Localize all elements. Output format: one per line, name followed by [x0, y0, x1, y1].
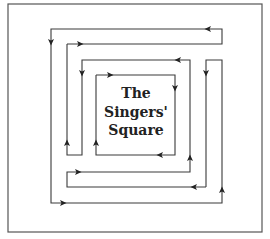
title-line-2: Singers' [104, 104, 168, 120]
title-line-1: The [121, 85, 151, 101]
singers-square-diagram: The Singers' Square [0, 0, 270, 239]
title-label: The Singers' Square [104, 85, 168, 138]
diagram-canvas: The Singers' Square [0, 0, 270, 239]
title-line-3: Square [108, 122, 164, 138]
